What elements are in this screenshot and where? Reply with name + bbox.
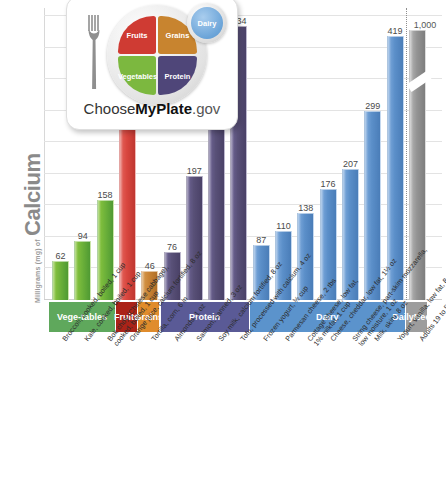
bar-value-label: 87 [256, 235, 266, 245]
bar-value-label: 197 [187, 166, 202, 176]
plate-segment-fruits-label: Fruits [118, 31, 156, 40]
bar-value-label: 1,000 [414, 20, 437, 30]
bar-value-label: 176 [321, 179, 336, 189]
plate-segment-vegetables-label: Vegetables [118, 71, 156, 80]
y-axis-nutrient-label: Calcium [20, 153, 46, 236]
calcium-chart-page: Milligrams (mg) of Calcium 6294158349467… [0, 0, 446, 480]
bar[interactable]: 197 [186, 176, 203, 300]
y-axis-unit-label: Milligrams (mg) of [34, 239, 41, 303]
plate-dairy-label: Dairy [191, 7, 223, 39]
myplate-wordmark-myplate: MyPlate [135, 100, 192, 117]
fork-icon [87, 13, 101, 93]
plate-segment-protein-label: Protein [158, 71, 197, 80]
y-axis-title: Milligrams (mg) of Calcium [20, 83, 46, 303]
bar-value-label: 138 [298, 203, 313, 213]
bar-value-label: 299 [365, 101, 380, 111]
bar-value-label: 110 [276, 221, 290, 231]
bar-value-label: 158 [98, 190, 113, 200]
myplate-wordmark-gov: .gov [192, 100, 220, 117]
bar-value-label: 207 [343, 159, 358, 169]
bar-value-label: 46 [145, 261, 155, 271]
daily-needs-separator [406, 8, 407, 300]
choose-myplate-logo: Fruits Grains Vegetables Protein Dairy C… [66, 0, 238, 130]
myplate-wordmark-choose: Choose [84, 100, 136, 117]
plate-dairy-circle: Dairy [187, 3, 227, 43]
bar[interactable]: 62 [52, 261, 69, 300]
x-axis-labels: Broccoli, cooked, boiled, 1 cupKale, coo… [0, 336, 446, 480]
bar-value-label: 419 [387, 26, 402, 36]
myplate-wordmark: ChooseMyPlate.gov [67, 100, 237, 117]
bar[interactable]: 299 [208, 111, 225, 300]
bar-value-label: 62 [55, 251, 65, 261]
bar-value-label: 76 [167, 242, 177, 252]
bar-value-label: 94 [78, 231, 88, 241]
bar[interactable]: 94 [74, 241, 91, 300]
axis-break-slash [406, 71, 431, 92]
